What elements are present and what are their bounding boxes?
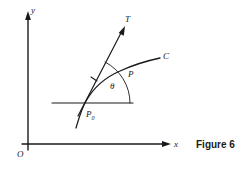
point-p-label: P <box>127 69 134 79</box>
tangent-arrowhead <box>119 26 125 36</box>
angle-theta-label: θ <box>110 81 115 91</box>
x-axis-arrowhead <box>162 141 171 147</box>
origin-label: O <box>17 149 24 159</box>
tangent-t-label: T <box>125 14 131 24</box>
y-axis-label: y <box>30 5 35 15</box>
tangent-point-subscript: 0 <box>92 115 95 121</box>
x-axis-label: x <box>173 139 178 149</box>
tangent-tick-mark <box>91 77 97 81</box>
figure-caption: Figure 6 <box>196 139 235 150</box>
figure-diagram: y x O C P T θ P 0 Figure 6 <box>0 0 252 169</box>
figure-container: y x O C P T θ P 0 Figure 6 <box>0 0 252 169</box>
curve-c-label: C <box>163 51 170 61</box>
